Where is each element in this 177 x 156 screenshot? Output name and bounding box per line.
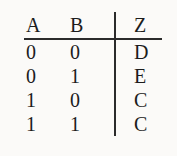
- table-row: 0 1 E: [24, 64, 162, 88]
- cell-b: 1: [68, 66, 114, 86]
- cell-b: 0: [68, 42, 114, 62]
- table-row: 1 1 C: [24, 112, 162, 136]
- cell-b: 1: [68, 114, 114, 134]
- table-header-row: A B Z: [24, 12, 162, 40]
- cell-z: E: [114, 64, 162, 88]
- column-header-a: A: [24, 15, 68, 35]
- cell-b: 0: [68, 90, 114, 110]
- cell-a: 1: [24, 90, 68, 110]
- table-row: 0 0 D: [24, 40, 162, 64]
- table-row: 1 0 C: [24, 88, 162, 112]
- cell-a: 1: [24, 114, 68, 134]
- cell-z: C: [114, 88, 162, 112]
- truth-table: A B Z 0 0 D 0 1 E 1 0 C 1 1 C: [24, 12, 162, 136]
- cell-a: 0: [24, 66, 68, 86]
- cell-a: 0: [24, 42, 68, 62]
- cell-z: D: [114, 40, 162, 64]
- column-header-b: B: [68, 15, 114, 35]
- cell-z: C: [114, 112, 162, 136]
- column-header-z: Z: [114, 12, 162, 38]
